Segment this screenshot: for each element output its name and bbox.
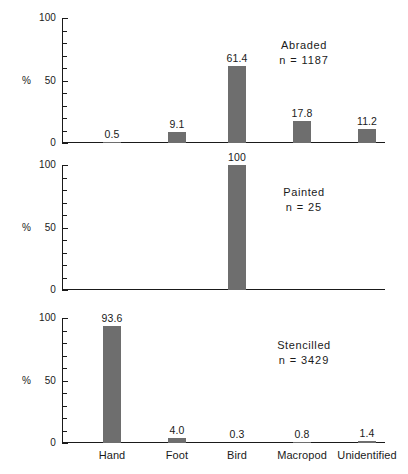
y-tick-major — [62, 165, 68, 166]
bar-value-label: 17.8 — [272, 108, 332, 119]
bar-value-label: 0.3 — [207, 429, 267, 440]
bar-value-label: 9.1 — [147, 119, 207, 130]
bar-unidentified — [358, 129, 376, 143]
y-tick-label: 100 — [16, 313, 56, 323]
y-tick-minor — [62, 31, 67, 32]
y-axis-title: % — [22, 376, 31, 386]
y-tick-minor — [62, 240, 67, 241]
y-tick-minor — [62, 253, 67, 254]
y-tick-minor — [62, 368, 67, 369]
y-tick-minor — [62, 43, 67, 44]
y-tick-minor — [62, 56, 67, 57]
bar-value-label: 4.0 — [147, 425, 207, 436]
y-tick-minor — [62, 190, 67, 191]
bar-foot — [168, 438, 186, 443]
plot-area — [62, 318, 385, 443]
bar-value-label: 11.2 — [337, 116, 397, 127]
x-axis-line — [62, 289, 385, 290]
y-tick-major — [62, 318, 68, 319]
y-tick-minor — [62, 131, 67, 132]
bar-value-label: 1.4 — [337, 428, 397, 439]
panel-annotation: Stencilledn = 3429 — [244, 338, 364, 368]
bar-foot — [168, 132, 186, 143]
bar-value-label: 0.8 — [272, 429, 332, 440]
y-tick-minor — [62, 118, 67, 119]
y-tick-label: 100 — [16, 13, 56, 23]
bar-hand — [103, 142, 121, 143]
bar-bird — [228, 66, 246, 143]
y-tick-minor — [62, 343, 67, 344]
y-tick-major — [62, 18, 68, 19]
bar-macropod — [293, 121, 311, 143]
y-tick-minor — [62, 93, 67, 94]
panel-name: Painted — [244, 185, 364, 200]
y-tick-minor — [62, 278, 67, 279]
panel-annotation: Paintedn = 25 — [244, 185, 364, 215]
y-tick-minor — [62, 203, 67, 204]
bar-macropod — [293, 442, 311, 443]
panel-sample-size: n = 3429 — [244, 353, 364, 368]
y-tick-label: 0 — [16, 138, 56, 148]
y-axis-title: % — [22, 223, 31, 233]
y-tick-major — [62, 381, 68, 382]
y-tick-minor — [62, 406, 67, 407]
y-tick-minor — [62, 215, 67, 216]
panel-sample-size: n = 25 — [244, 200, 364, 215]
y-tick-label: 0 — [16, 438, 56, 448]
bar-value-label: 93.6 — [82, 313, 142, 324]
panel-annotation: Abradedn = 1187 — [244, 38, 364, 68]
y-tick-minor — [62, 265, 67, 266]
bar-unidentified — [358, 441, 376, 443]
x-category-label-unidentified: Unidentified — [312, 449, 408, 461]
y-tick-major — [62, 228, 68, 229]
y-tick-major — [62, 81, 68, 82]
y-tick-label: 100 — [16, 160, 56, 170]
y-tick-major — [62, 143, 68, 144]
panel-name: Stencilled — [244, 338, 364, 353]
panel-sample-size: n = 1187 — [244, 53, 364, 68]
y-tick-minor — [62, 106, 67, 107]
bar-hand — [103, 326, 121, 443]
y-tick-minor — [62, 331, 67, 332]
bar-value-label: 0.5 — [82, 129, 142, 140]
y-tick-minor — [62, 431, 67, 432]
bar-bird — [228, 165, 246, 290]
y-tick-minor — [62, 356, 67, 357]
y-tick-label: 0 — [16, 285, 56, 295]
y-tick-minor — [62, 393, 67, 394]
y-tick-minor — [62, 178, 67, 179]
y-tick-minor — [62, 418, 67, 419]
y-tick-minor — [62, 68, 67, 69]
motif-frequency-figure: 050100%0.59.161.417.811.2Abradedn = 1187… — [0, 0, 408, 474]
panel-name: Abraded — [244, 38, 364, 53]
y-tick-major — [62, 443, 68, 444]
bar-value-label: 100 — [207, 152, 267, 163]
y-tick-major — [62, 290, 68, 291]
y-axis-title: % — [22, 76, 31, 86]
plot-area — [62, 165, 385, 290]
